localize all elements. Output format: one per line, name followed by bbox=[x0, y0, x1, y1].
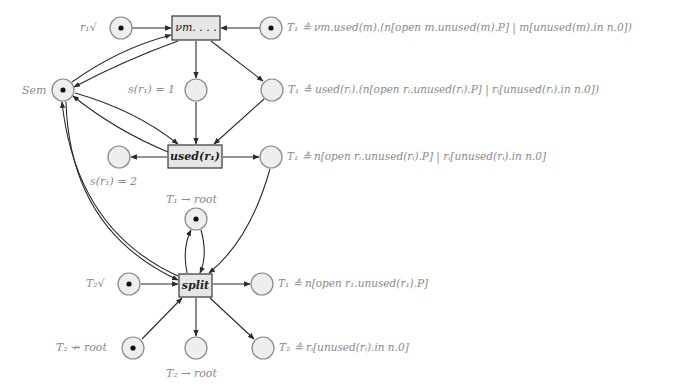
token-icon bbox=[193, 216, 198, 221]
arc-used-sem bbox=[73, 96, 168, 152]
tokens bbox=[60, 25, 273, 350]
arc-sem-used bbox=[75, 93, 178, 144]
arc-T1after-split bbox=[209, 169, 270, 273]
label-T2-notroot: T₂ ↛ root bbox=[56, 342, 107, 353]
transition-label-used: used(r₁) bbox=[168, 151, 222, 162]
token-icon bbox=[130, 345, 135, 350]
arc-vm-T1used bbox=[211, 41, 263, 81]
token-icon bbox=[126, 281, 131, 286]
transition-label-vm: νm. . . . bbox=[172, 22, 220, 33]
label-T1-root: T₁ → root bbox=[166, 194, 217, 205]
place-T1-split bbox=[251, 273, 273, 295]
arc-T1used-used bbox=[214, 99, 264, 144]
arc-sem-split bbox=[66, 102, 178, 280]
transition-label-split: split bbox=[179, 280, 212, 291]
arc-T1root-split bbox=[200, 230, 204, 273]
label-s2: s(r₁) = 2 bbox=[90, 176, 137, 187]
place-s1 bbox=[185, 79, 207, 101]
place-T2-split bbox=[252, 337, 274, 359]
label-T1-used: T₁ ≙ used(rᵢ).(n[open rᵢ.unused(rᵢ).P] |… bbox=[288, 84, 599, 95]
token-icon bbox=[118, 25, 123, 30]
petri-net-diagram bbox=[0, 0, 688, 389]
token-icon bbox=[60, 87, 65, 92]
label-T2-split: T₂ ≙ rᵢ[unused(rᵢ).in n.0] bbox=[279, 342, 409, 353]
arc-split-T2split bbox=[210, 298, 254, 339]
token-icon bbox=[268, 25, 273, 30]
label-T2-root: T₂ → root bbox=[166, 368, 217, 379]
place-s2 bbox=[108, 146, 130, 168]
label-T1-split: T₁ ≙ n[open r₁.unused(r₁).P] bbox=[278, 278, 428, 289]
place-T1-used bbox=[261, 79, 283, 101]
label-r1-ok: r₁√ bbox=[80, 22, 97, 33]
label-T2-ok: T₂√ bbox=[86, 278, 105, 289]
places bbox=[52, 17, 283, 359]
place-T1-after bbox=[260, 146, 282, 168]
place-T2-root bbox=[185, 337, 207, 359]
arc-T2notroot-split bbox=[142, 298, 182, 339]
label-sem: Sem bbox=[22, 85, 46, 96]
label-s1: s(r₁) = 1 bbox=[128, 84, 175, 95]
label-T1-top: T₁ ≙ νm.used(m).(n[open m.unused(m).P] |… bbox=[287, 22, 632, 33]
label-T1-after: T₁ ≙ n[open rᵢ.unused(rᵢ).P] | rᵢ[unused… bbox=[287, 151, 546, 162]
arc-split-T1root bbox=[185, 230, 191, 273]
arc-vm-sem bbox=[74, 41, 178, 87]
arc-sem-vm bbox=[72, 35, 171, 82]
